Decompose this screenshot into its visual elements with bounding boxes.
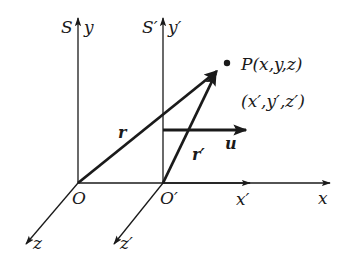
origin-o-prime-label: O′: [160, 188, 178, 208]
origin-o-label: O: [72, 188, 86, 208]
frame-s-label: S: [61, 17, 73, 37]
vector-r-prime-label: r′: [192, 145, 205, 164]
vector-r: [78, 71, 217, 183]
point-p-label: P(x,y,z): [240, 54, 302, 74]
z-axis-label: z: [32, 233, 43, 253]
vector-u-label: u: [225, 134, 237, 153]
y-prime-axis-label: y′: [167, 17, 182, 37]
z-prime-axis-label: z′: [119, 233, 133, 253]
x-axis-label: x: [318, 188, 328, 208]
frame-s-prime-label: S′: [142, 17, 158, 37]
vector-r-prime: [163, 73, 216, 183]
x-prime-axis-label: x′: [236, 189, 250, 209]
reference-frames-diagram: S y S′ y′ P(x,y,z) (x′,y′,z′) r r′ u O O…: [0, 0, 357, 262]
y-axis-label: y: [83, 17, 94, 37]
point-p-dot: [224, 60, 230, 66]
vector-r-label: r: [118, 123, 128, 142]
point-primed-coords: (x′,y′,z′): [241, 91, 305, 111]
